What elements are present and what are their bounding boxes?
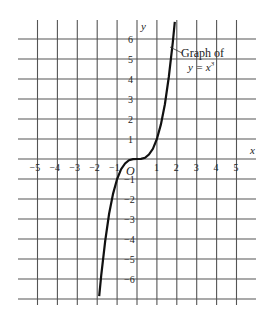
x-tick-label: −4 [49,162,60,173]
y-tick-label: −5 [124,254,135,265]
y-tick-label: −2 [124,194,135,205]
x-axis-label: x [249,144,255,156]
y-axis-label: y [140,20,146,32]
y-tick-label: −3 [124,214,135,225]
origin-label: O [126,164,135,178]
annotation-equation: y = x3 [187,60,215,73]
annotation-title: Graph of [181,46,224,60]
y-tick-label: −6 [124,274,135,285]
x-tick-label: 1 [154,162,159,173]
y-tick-label: −4 [124,234,135,245]
x-tick-label: 2 [174,162,179,173]
x-tick-label: −5 [30,162,41,173]
x-tick-label: 3 [194,162,199,173]
x-tick-label: −2 [89,162,100,173]
y-tick-label: 5 [128,54,133,65]
y-tick-label: 2 [128,114,133,125]
y-tick-label: 3 [128,94,133,105]
cubic-graph-chart: −5−4−3−2−112345654321−1−2−3−4−5−6 y x O … [0,0,268,314]
x-tick-label: −3 [69,162,80,173]
x-tick-label: 5 [234,162,239,173]
x-tick-label: 4 [214,162,219,173]
x-tick-label: −1 [109,162,120,173]
y-tick-label: 6 [128,34,133,45]
y-tick-label: 1 [128,134,133,145]
y-tick-label: 4 [128,74,133,85]
